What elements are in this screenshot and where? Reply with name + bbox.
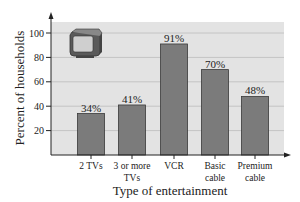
x-axis-arrow-icon (284, 153, 291, 158)
y-tick-label: 100 (29, 28, 44, 39)
x-tick-label: cable (205, 173, 225, 183)
x-tick-label: 2 TVs (79, 161, 103, 171)
y-tick-label: 40 (34, 101, 44, 112)
television-icon (70, 29, 102, 58)
x-tick-label: Premium (238, 161, 273, 171)
y-tick-label: 60 (34, 76, 44, 87)
bar-value-label: 91% (164, 32, 184, 44)
y-ticks: 20406080100 (29, 28, 51, 137)
x-axis-label: Type of entertainment (113, 183, 228, 198)
bar (119, 105, 146, 155)
y-axis-arrow-icon (49, 12, 54, 19)
x-ticks: 2 TVs3 or moreTVsVCRBasiccablePremiumcab… (79, 155, 273, 183)
x-tick-label: TVs (124, 173, 141, 183)
bar-value-label: 70% (205, 58, 225, 70)
bar (202, 70, 229, 155)
bar (242, 96, 269, 155)
y-tick-label: 20 (34, 125, 44, 136)
bar-value-label: 48% (245, 84, 265, 96)
x-tick-label: cable (245, 173, 265, 183)
bar-value-label: 41% (122, 93, 142, 105)
y-axis-label: Percent of households (12, 31, 27, 146)
y-tick-label: 80 (34, 52, 44, 63)
x-tick-label: Basic (204, 161, 225, 171)
bar-chart: 34%41%91%70%48% 20406080100 2 TVs3 or mo… (0, 0, 300, 202)
x-tick-label: VCR (164, 161, 184, 171)
bar (161, 44, 188, 155)
bar (78, 114, 105, 155)
x-tick-label: 3 or more (114, 161, 151, 171)
bar-value-label: 34% (81, 102, 101, 114)
